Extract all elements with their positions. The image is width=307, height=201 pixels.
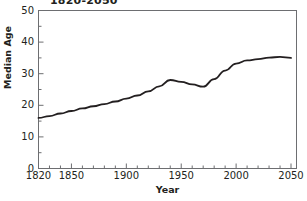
x-tick-label: 2000 — [214, 171, 258, 181]
y-axis-ticks — [39, 11, 44, 169]
x-axis-ticks — [39, 164, 292, 169]
x-tick-label: 1950 — [159, 171, 203, 181]
x-tick-label: 1850 — [49, 171, 93, 181]
x-axis-title: Year — [38, 184, 297, 195]
axis-frame — [39, 11, 297, 169]
median-age-line-chart: 1820-2050 Median Age 01020304050 1820185… — [0, 0, 307, 201]
x-tick-label: 1900 — [104, 171, 148, 181]
data-series-line — [39, 57, 292, 118]
x-tick-label: 2050 — [269, 171, 307, 181]
